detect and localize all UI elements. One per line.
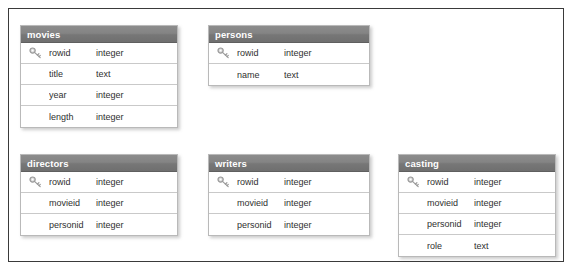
table-card-persons[interactable]: personsrowidintegernametext: [208, 25, 370, 86]
table-row[interactable]: rowidinteger: [209, 43, 369, 64]
table-row[interactable]: lengthinteger: [21, 106, 177, 127]
column-name: rowid: [427, 177, 474, 187]
column-name: movieid: [427, 198, 474, 208]
column-type: text: [96, 69, 177, 79]
table-row[interactable]: roletext: [399, 235, 555, 256]
diagram-frame: moviesrowidintegertitletextyearintegerle…: [8, 8, 564, 262]
column-name: movieid: [237, 198, 284, 208]
column-name: name: [237, 70, 284, 80]
column-type: integer: [284, 198, 369, 208]
column-name: role: [427, 241, 474, 251]
table-row[interactable]: personidinteger: [21, 214, 177, 235]
primary-key-icon: [21, 176, 49, 188]
table-header-directors: directors: [21, 155, 177, 172]
table-row[interactable]: personidinteger: [399, 214, 555, 235]
table-header-persons: persons: [209, 26, 369, 43]
column-type: integer: [474, 198, 555, 208]
table-card-writers[interactable]: writersrowidintegermovieidintegerpersoni…: [208, 154, 370, 236]
table-header-movies: movies: [21, 26, 177, 43]
column-name: personid: [49, 220, 96, 230]
table-card-casting[interactable]: castingrowidintegermovieidintegerpersoni…: [398, 154, 556, 257]
column-name: rowid: [49, 48, 96, 58]
table-row[interactable]: personidinteger: [209, 214, 369, 235]
column-type: integer: [474, 177, 555, 187]
table-row[interactable]: movieidinteger: [21, 193, 177, 214]
table-row[interactable]: movieidinteger: [399, 193, 555, 214]
column-name: personid: [237, 220, 284, 230]
column-name: rowid: [237, 48, 284, 58]
column-name: rowid: [49, 177, 96, 187]
schema-diagram-canvas: moviesrowidintegertitletextyearintegerle…: [0, 0, 574, 272]
table-card-directors[interactable]: directorsrowidintegermovieidintegerperso…: [20, 154, 178, 236]
column-type: integer: [96, 220, 177, 230]
column-name: movieid: [49, 198, 96, 208]
column-type: integer: [96, 198, 177, 208]
table-row[interactable]: rowidinteger: [21, 172, 177, 193]
table-row[interactable]: rowidinteger: [399, 172, 555, 193]
table-rows-casting: rowidintegermovieidintegerpersonidintege…: [399, 172, 555, 256]
column-name: rowid: [237, 177, 284, 187]
table-row[interactable]: yearinteger: [21, 85, 177, 106]
column-name: length: [49, 112, 96, 122]
table-row[interactable]: rowidinteger: [209, 172, 369, 193]
column-name: personid: [427, 219, 474, 229]
table-row[interactable]: rowidinteger: [21, 43, 177, 64]
column-name: year: [49, 90, 96, 100]
table-row[interactable]: titletext: [21, 64, 177, 85]
column-type: integer: [96, 48, 177, 58]
primary-key-icon: [209, 176, 237, 188]
column-type: text: [474, 241, 555, 251]
table-card-movies[interactable]: moviesrowidintegertitletextyearintegerle…: [20, 25, 178, 128]
table-rows-directors: rowidintegermovieidintegerpersonidintege…: [21, 172, 177, 235]
table-rows-writers: rowidintegermovieidintegerpersonidintege…: [209, 172, 369, 235]
column-type: integer: [284, 220, 369, 230]
table-rows-movies: rowidintegertitletextyearintegerlengthin…: [21, 43, 177, 127]
table-row[interactable]: nametext: [209, 64, 369, 85]
column-type: integer: [474, 219, 555, 229]
table-header-casting: casting: [399, 155, 555, 172]
primary-key-icon: [21, 47, 49, 59]
column-type: integer: [284, 177, 369, 187]
column-type: integer: [96, 90, 177, 100]
column-name: title: [49, 69, 96, 79]
column-type: integer: [284, 48, 369, 58]
column-type: text: [284, 70, 369, 80]
column-type: integer: [96, 177, 177, 187]
column-type: integer: [96, 112, 177, 122]
table-header-writers: writers: [209, 155, 369, 172]
table-rows-persons: rowidintegernametext: [209, 43, 369, 85]
primary-key-icon: [209, 47, 237, 59]
primary-key-icon: [399, 176, 427, 188]
table-row[interactable]: movieidinteger: [209, 193, 369, 214]
